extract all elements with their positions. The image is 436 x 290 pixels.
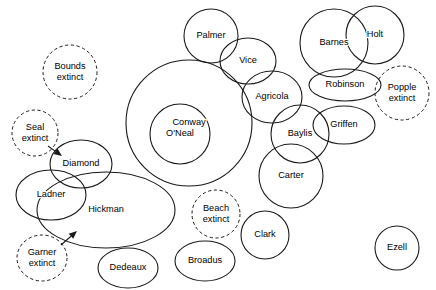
group-label-beach: Beachextinct bbox=[203, 203, 230, 224]
group-label-popple: Poppleextinct bbox=[388, 82, 417, 103]
group-label-garner: Garnerextinct bbox=[28, 247, 57, 268]
group-label-griffen: Griffen bbox=[330, 119, 357, 129]
diagram-canvas: BoundsextinctSealextinctGarnerextinctPop… bbox=[0, 0, 436, 290]
group-label-clark: Clark bbox=[254, 229, 276, 239]
group-label-holt: Holt bbox=[367, 29, 384, 39]
group-label-barnes: Barnes bbox=[319, 37, 349, 47]
group-label-ezell: Ezell bbox=[387, 242, 407, 252]
group-label-palmer: Palmer bbox=[196, 30, 225, 40]
group-label-oneal: O'Neal bbox=[166, 128, 194, 138]
group-label-broadus: Broadus bbox=[188, 255, 223, 265]
labels-layer: BoundsextinctSealextinctGarnerextinctPop… bbox=[22, 29, 417, 272]
euler-diagram: BoundsextinctSealextinctGarnerextinctPop… bbox=[0, 0, 436, 290]
group-label-baylis: Baylis bbox=[288, 128, 313, 138]
group-label-carter: Carter bbox=[278, 170, 304, 180]
group-label-diamond: Diamond bbox=[63, 158, 100, 168]
group-label-seal: Sealextinct bbox=[22, 122, 49, 143]
group-label-robinson: Robinson bbox=[326, 79, 365, 89]
arrow-line-garner-to-hickman bbox=[61, 236, 71, 245]
group-label-bounds: Boundsextinct bbox=[54, 61, 86, 82]
shapes-layer bbox=[12, 6, 429, 288]
group-label-ladner: Ladner bbox=[37, 189, 66, 199]
group-label-hickman: Hickman bbox=[88, 204, 124, 214]
group-label-agricola: Agricola bbox=[255, 91, 289, 101]
group-label-conway: Conway bbox=[172, 117, 206, 127]
group-label-vice: Vice bbox=[239, 55, 257, 65]
arrow-head-seal-to-diamond bbox=[54, 149, 62, 156]
group-label-dedeaux: Dedeaux bbox=[110, 262, 147, 272]
